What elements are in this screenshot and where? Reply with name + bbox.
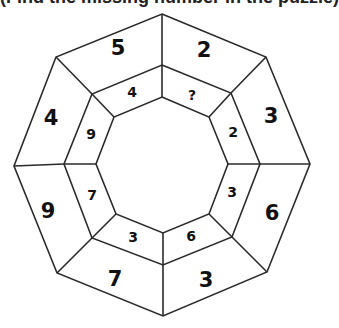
outer-cell-right-top: 3 <box>264 104 279 128</box>
inner-octagon <box>96 97 228 233</box>
middle-cell-bottom-right: 6 <box>186 228 196 244</box>
middle-cell-right-bottom: 3 <box>227 184 237 200</box>
middle-cell-top-right-missing: ? <box>188 87 196 103</box>
outer-cell-right-bottom: 6 <box>265 201 280 225</box>
outer-cell-left-bottom: 9 <box>41 199 56 223</box>
outer-cell-top-right: 2 <box>197 38 212 62</box>
middle-cell-left-bottom: 7 <box>87 187 97 203</box>
middle-cell-top-left: 4 <box>127 84 137 100</box>
outer-cell-top-left: 5 <box>111 36 126 60</box>
radial-spokes <box>14 14 310 316</box>
middle-cell-bottom-left: 3 <box>128 229 138 245</box>
outer-cell-left-top: 4 <box>44 106 59 130</box>
middle-cell-right-top: 2 <box>228 124 238 140</box>
outer-cell-bottom-right: 3 <box>199 268 214 292</box>
middle-cell-left-top: 9 <box>86 126 96 142</box>
outer-cell-bottom-left: 7 <box>108 267 123 291</box>
